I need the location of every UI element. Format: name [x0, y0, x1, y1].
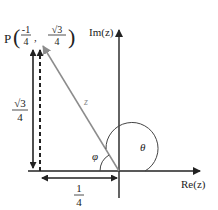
point-y-numerator: √3 [52, 24, 63, 35]
point-x-denominator: 4 [24, 36, 29, 47]
width-numerator: 1 [76, 182, 82, 194]
width-denominator: 4 [76, 196, 82, 208]
point-label: P [4, 31, 11, 46]
theta-label: θ [140, 141, 146, 153]
height-denominator: 4 [17, 111, 23, 123]
vector-z-label: z [83, 96, 88, 107]
imaginary-axis-label: Im(z) [89, 26, 114, 39]
diagram-svg: P ( ) -1 4 , √3 4 Im(z) Re(z) z φ θ √3 4… [0, 0, 218, 210]
point-x-numerator: -1 [22, 24, 30, 35]
phi-label: φ [92, 150, 98, 162]
complex-plane-diagram: P ( ) -1 4 , √3 4 Im(z) Re(z) z φ θ √3 4… [0, 0, 218, 210]
real-axis-label: Re(z) [181, 178, 206, 191]
height-numerator: √3 [14, 97, 26, 109]
point-y-denominator: 4 [55, 36, 60, 47]
phi-angle-arc [100, 155, 109, 171]
left-paren: ( [13, 24, 20, 49]
vector-z [43, 46, 119, 171]
right-paren: ) [68, 24, 75, 49]
comma: , [34, 31, 37, 43]
